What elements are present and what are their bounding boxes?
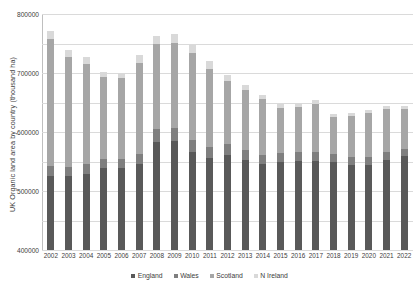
bar-column: [224, 75, 231, 250]
x-axis-tick-label: 2016: [291, 252, 305, 259]
bar-column: [118, 73, 125, 250]
bar-segment-england: [277, 162, 284, 250]
legend-item-label: Wales: [180, 272, 199, 279]
stacked-bar-chart: UK Organic land area by country (thousan…: [0, 0, 419, 289]
bar-segment-scotland: [330, 117, 337, 154]
y-axis-tick-label: 400000: [17, 247, 39, 254]
y-axis-tick-label: 500000: [17, 188, 39, 195]
x-axis-tick-label: 2020: [362, 252, 376, 259]
x-axis-tick-label: 2012: [220, 252, 234, 259]
bar-segment-england: [242, 160, 249, 250]
bar-segment-n-ireland: [171, 34, 178, 43]
bar-segment-england: [348, 165, 355, 250]
bar-segment-england: [100, 168, 107, 250]
bar-column: [259, 95, 266, 250]
bar-segment-wales: [189, 140, 196, 152]
bar-segment-wales: [136, 154, 143, 165]
x-axis-labels: 2002200320042005200620072008200920102011…: [42, 252, 413, 264]
bar-segment-scotland: [118, 78, 125, 158]
bar-segment-wales: [383, 152, 390, 160]
bar-segment-n-ireland: [136, 55, 143, 62]
bar-segment-scotland: [259, 99, 266, 155]
bar-segment-wales: [118, 159, 125, 169]
bar-segment-scotland: [383, 109, 390, 152]
bar-column: [383, 106, 390, 250]
x-axis-tick-label: 2017: [309, 252, 323, 259]
bar-segment-wales: [348, 157, 355, 165]
bar-column: [153, 36, 160, 250]
bar-segment-n-ireland: [153, 36, 160, 45]
bar-column: [65, 50, 72, 250]
bar-segment-wales: [295, 152, 302, 161]
bar-column: [171, 34, 178, 250]
x-axis-tick-label: 2003: [61, 252, 75, 259]
legend-item-england[interactable]: England: [131, 272, 162, 279]
x-axis-tick-label: 2010: [185, 252, 199, 259]
bar-segment-wales: [65, 167, 72, 177]
x-axis-tick-label: 2013: [238, 252, 252, 259]
bar-segment-england: [224, 155, 231, 250]
bar-segment-england: [65, 176, 72, 250]
x-axis-tick-label: 2008: [150, 252, 164, 259]
bar-segment-england: [206, 158, 213, 250]
x-axis-tick-label: 2004: [79, 252, 93, 259]
x-axis-tick-label: 2021: [379, 252, 393, 259]
bar-segment-scotland: [136, 63, 143, 154]
legend-item-label: N Ireland: [260, 272, 288, 279]
bar-segment-scotland: [277, 108, 284, 153]
bar-segment-scotland: [100, 77, 107, 158]
chart-legend: EnglandWalesScotlandN Ireland: [0, 272, 419, 279]
gridline: 0: [42, 250, 413, 251]
bar-column: [312, 100, 319, 250]
legend-item-label: England: [138, 272, 163, 279]
legend-item-n-ireland[interactable]: N Ireland: [254, 272, 288, 279]
bar-segment-n-ireland: [65, 50, 72, 57]
bar-segment-england: [330, 162, 337, 251]
legend-swatch-icon: [254, 274, 258, 278]
legend-swatch-icon: [210, 274, 214, 278]
bar-segment-england: [153, 142, 160, 250]
bar-segment-scotland: [189, 53, 196, 140]
bar-column: [242, 85, 249, 250]
bar-segment-scotland: [242, 90, 249, 150]
bar-segment-england: [83, 174, 90, 250]
legend-item-scotland[interactable]: Scotland: [210, 272, 243, 279]
bar-segment-england: [401, 156, 408, 250]
bar-segment-wales: [47, 166, 54, 175]
bar-segment-scotland: [83, 64, 90, 164]
x-axis-tick-label: 2015: [273, 252, 287, 259]
bar-segment-england: [136, 164, 143, 250]
bar-column: [136, 55, 143, 250]
bar-segment-england: [47, 176, 54, 250]
bar-segment-scotland: [171, 43, 178, 128]
bar-column: [365, 110, 372, 250]
bar-column: [295, 103, 302, 250]
x-axis-tick-label: 2005: [97, 252, 111, 259]
y-axis-title: UK Organic land area by country (thousan…: [8, 19, 17, 251]
bar-segment-scotland: [47, 39, 54, 166]
legend-item-wales[interactable]: Wales: [174, 272, 199, 279]
bar-segment-wales: [312, 152, 319, 160]
bar-segment-england: [383, 160, 390, 250]
bar-segment-england: [365, 165, 372, 250]
bar-segment-england: [171, 141, 178, 250]
bar-column: [206, 61, 213, 250]
bar-segment-scotland: [224, 81, 231, 144]
x-axis-tick-label: 2011: [203, 252, 217, 259]
bar-segment-scotland: [312, 104, 319, 153]
bar-column: [189, 45, 196, 250]
bar-column: [348, 113, 355, 250]
bar-segment-england: [259, 164, 266, 250]
legend-swatch-icon: [131, 274, 135, 278]
bar-segment-wales: [171, 128, 178, 141]
bar-segment-wales: [259, 155, 266, 164]
bar-segment-n-ireland: [189, 45, 196, 53]
bar-segment-england: [118, 168, 125, 250]
x-axis-tick-label: 2018: [326, 252, 340, 259]
x-axis-tick-label: 2014: [256, 252, 270, 259]
bar-segment-n-ireland: [206, 61, 213, 68]
bar-segment-scotland: [365, 113, 372, 157]
x-axis-tick-label: 2002: [44, 252, 58, 259]
bar-segment-wales: [206, 147, 213, 158]
bar-segment-wales: [277, 153, 284, 162]
